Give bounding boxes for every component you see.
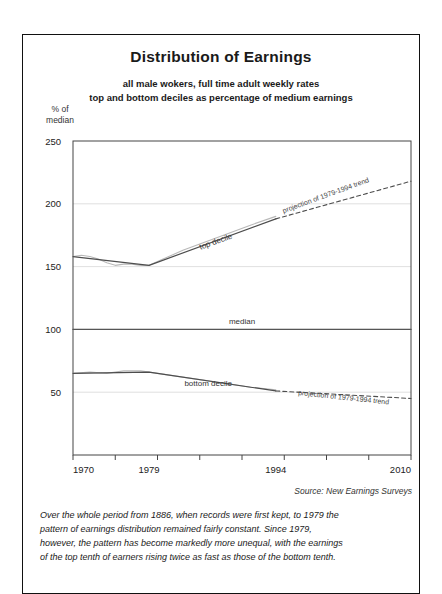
- annotation-median-2: median: [229, 317, 255, 326]
- annotation-projection-of-1979-1994-trend-1: projection of 1979-1994 trend: [281, 176, 370, 215]
- caption-block: Over the whole period from 1886, when re…: [40, 508, 400, 564]
- series-bottom-decile-trend: [73, 372, 276, 391]
- y-tick-label-200: 200: [45, 198, 61, 209]
- y-tick-label-100: 100: [45, 324, 61, 335]
- annotation-projection-of-1979-1994-trend-4: projection of 1979-1994 trend: [298, 389, 390, 407]
- annotation-top-decile-0: top decile: [198, 231, 234, 251]
- plot-border: [73, 141, 411, 455]
- x-tick-label-1970: 1970: [73, 464, 94, 475]
- annotation-bottom-decile-3: bottom decile: [184, 379, 232, 388]
- y-tick-label-150: 150: [45, 261, 61, 272]
- x-tick-label-2010: 2010: [390, 464, 411, 475]
- x-tick-label-1994: 1994: [265, 464, 286, 475]
- source-note: Source: New Earnings Surveys: [294, 486, 412, 496]
- caption-line-4: of the top tenth of earners rising twice…: [40, 550, 400, 564]
- series-top-decile: [73, 216, 276, 265]
- x-tick-label-1979: 1979: [138, 464, 159, 475]
- y-tick-label-50: 50: [50, 387, 61, 398]
- caption-line-2: pattern of earnings distribution remaine…: [40, 522, 400, 536]
- caption-line-1: Over the whole period from 1886, when re…: [40, 508, 400, 522]
- y-tick-label-250: 250: [45, 136, 61, 147]
- caption-line-3: however, the pattern has become markedly…: [40, 536, 400, 550]
- series-top-decile-trend: [73, 219, 276, 265]
